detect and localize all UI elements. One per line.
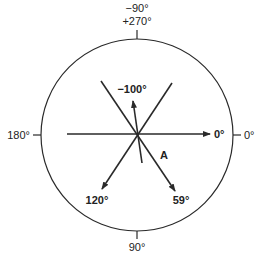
axis-label-top-2: +270°: [122, 15, 151, 27]
axis-label-left: 180°: [7, 129, 30, 141]
vector-label-120: 120°: [86, 194, 109, 206]
annotation-a: A: [160, 149, 168, 161]
vector-label-minus-100: −100°: [117, 83, 146, 95]
phase-angle-diagram: −90° +270° 180° 0° 90° 0° 59° 120° −100°…: [0, 0, 260, 258]
vector-label-0: 0°: [214, 128, 225, 140]
axis-label-right: 0°: [244, 129, 255, 141]
vector-label-59: 59°: [173, 194, 190, 206]
axis-label-top-1: −90°: [125, 2, 148, 14]
axis-label-bottom: 90°: [129, 241, 146, 253]
